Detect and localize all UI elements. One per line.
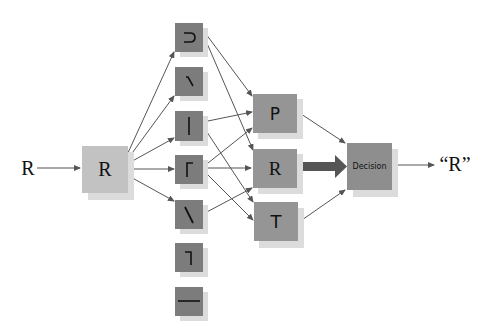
vertical-feature-icon (175, 111, 203, 141)
diagonal-back-feature-icon (175, 200, 203, 229)
edge-r-to-diagonal-back (127, 175, 174, 201)
strong-arrow-r-to-decision (300, 155, 347, 178)
edge-t-to-decision (299, 190, 345, 222)
feature-detector-diagonal-forward (175, 67, 203, 96)
feature-detector-horizontal (175, 287, 203, 316)
input-letter: R (18, 156, 38, 180)
corner-top-left-feature-icon (175, 155, 203, 184)
edge-r-to-diagonal (127, 96, 174, 160)
edge-p-to-decision (298, 112, 345, 143)
edge-corner-to-t (203, 170, 253, 220)
curve-feature-icon (175, 23, 203, 52)
output-letter: “R” (434, 151, 476, 177)
connections-layer (0, 0, 490, 336)
feature-detector-corner-top-left (175, 155, 203, 184)
letter-detector-r-label: R (253, 149, 297, 188)
horizontal-feature-icon (175, 287, 203, 316)
feature-detector-curve (175, 23, 203, 52)
edge-r-to-curve (127, 52, 174, 155)
feature-detector-vertical (175, 111, 203, 141)
edge-corner-to-p (203, 128, 252, 167)
edge-vertical-to-p (203, 112, 252, 122)
edge-curve-to-p (203, 30, 252, 96)
letter-detector-t-label: T (254, 202, 298, 241)
feature-detector-corner-top-right (175, 243, 203, 272)
decision-box-label: Decision (347, 143, 392, 190)
input-box-label: R (82, 146, 128, 193)
letter-detector-p-label: P (253, 94, 297, 133)
edge-diagonal-back-to-r (203, 188, 252, 214)
corner-top-right-feature-icon (175, 243, 203, 272)
diagonal-forward-feature-icon (175, 67, 203, 96)
edge-vertical-to-t (203, 126, 253, 202)
feature-detector-diagonal-back (175, 200, 203, 229)
